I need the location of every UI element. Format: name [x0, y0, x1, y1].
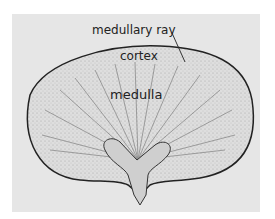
label-medullary-ray: medullary ray [92, 24, 176, 36]
label-medulla: medulla [110, 88, 162, 101]
label-cortex: cortex [120, 50, 158, 62]
